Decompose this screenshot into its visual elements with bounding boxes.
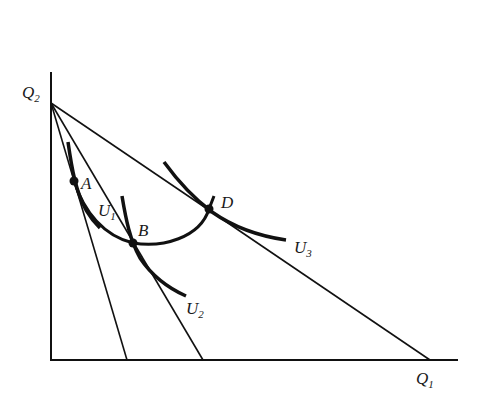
point-d [205,205,214,214]
u1-label: U1 [98,201,116,222]
point-d-label: D [220,193,234,212]
diagram-canvas: Q2 Q1 A B D U1 U2 U3 [0,0,497,417]
budget-line-2 [51,103,203,360]
y-axis-label: Q2 [22,83,40,104]
point-b [129,239,138,248]
u3-label: U3 [294,238,312,259]
u2-label: U2 [186,299,204,320]
point-a [70,177,79,186]
x-axis-label: Q1 [416,369,434,390]
point-b-label: B [138,221,149,240]
budget-line-1 [51,103,127,360]
point-a-label: A [80,174,92,193]
